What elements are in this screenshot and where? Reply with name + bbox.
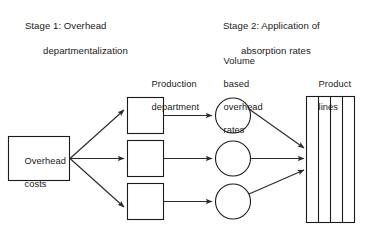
- overhead-costs-label: Overhead costs: [14, 145, 68, 202]
- overhead-rate-circle-3: [216, 184, 251, 219]
- overhead-costs-label-line-2: costs: [25, 179, 47, 189]
- volume-based-overhead-rates-label: Volume based overhead rates: [213, 45, 263, 148]
- volume-rates-label-line-4: rates: [224, 125, 245, 135]
- arrow-overhead-to-department-1: [70, 110, 124, 159]
- stage-1-heading-line-2: departmentalization: [14, 45, 128, 57]
- product-lines-label-line-2: lines: [319, 102, 338, 112]
- stage-1-heading-line-1: Stage 1: Overhead: [25, 20, 107, 31]
- production-department-label: Production department: [141, 68, 199, 125]
- arrow-overhead-to-department-3: [70, 159, 124, 208]
- production-department-box-2: [128, 141, 164, 177]
- cost-allocation-diagram: Stage 1: Overhead departmentalization St…: [0, 0, 365, 233]
- product-lines-label-line-1: Product: [319, 79, 351, 89]
- arrow-rate-3-to-product-lines: [249, 170, 304, 194]
- production-department-label-line-1: Production: [152, 79, 197, 89]
- volume-rates-label-line-3: overhead: [224, 102, 263, 112]
- overhead-costs-label-line-1: Overhead: [25, 156, 66, 166]
- production-department-label-line-2: department: [152, 102, 200, 112]
- production-department-box-3: [128, 184, 164, 220]
- stage-2-heading-line-1: Stage 2: Application of: [223, 20, 320, 31]
- stage-1-heading: Stage 1: Overhead departmentalization: [14, 8, 128, 81]
- product-lines-label: Product lines: [308, 68, 351, 125]
- volume-rates-label-line-1: Volume: [224, 56, 255, 66]
- volume-rates-label-line-2: based: [224, 79, 250, 89]
